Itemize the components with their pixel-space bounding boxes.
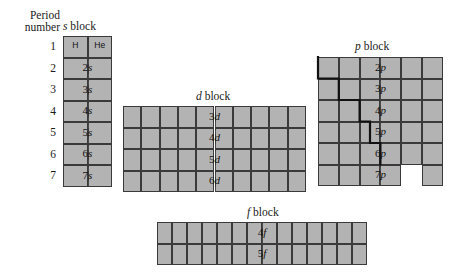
orbital-label-letter: s <box>88 104 92 116</box>
block-cell <box>178 149 196 171</box>
block-cell <box>233 128 251 150</box>
d-block-title: d block <box>196 90 230 102</box>
block-cell <box>337 222 352 244</box>
label-leader-tick <box>262 238 263 242</box>
orbital-row-label: 3s <box>74 84 102 95</box>
label-leader-tick <box>380 81 381 85</box>
block-cell <box>292 244 307 266</box>
orbital-label-letter: s <box>88 61 92 73</box>
block-cell <box>232 244 247 266</box>
label-leader-tick <box>215 165 216 169</box>
block-cell <box>318 165 339 187</box>
block-cell <box>123 149 141 171</box>
orbital-row-label: 5p <box>366 126 394 137</box>
block-cell <box>269 128 287 150</box>
label-leader-tick <box>88 74 89 78</box>
label-leader-tick <box>380 145 381 149</box>
block-cell <box>172 244 187 266</box>
f-block-title-word: block <box>253 206 279 218</box>
block-cell <box>202 222 217 244</box>
block-cell <box>251 149 269 171</box>
p-block-title: p block <box>355 40 389 52</box>
block-cell <box>318 57 339 79</box>
block-cell <box>288 106 306 128</box>
orbital-row-label: 5f <box>248 248 276 259</box>
block-cell <box>123 106 141 128</box>
block-cell <box>233 106 251 128</box>
block-cell <box>288 171 306 193</box>
period-number-caption: Period number <box>2 10 60 33</box>
block-cell <box>401 122 422 144</box>
orbital-label-letter: f <box>263 247 266 259</box>
block-cell <box>422 100 443 122</box>
orbital-label-letter: s <box>88 147 92 159</box>
label-leader-tick <box>88 138 89 142</box>
block-cell <box>422 143 443 165</box>
orbital-row-label: 4f <box>248 227 276 238</box>
block-cell <box>172 222 187 244</box>
s-block-title-word: block <box>70 20 96 32</box>
block-cell <box>178 106 196 128</box>
block-cell <box>277 244 292 266</box>
s-block-title: s block <box>63 20 96 32</box>
orbital-row-label: 3d <box>201 111 229 122</box>
block-cell <box>288 149 306 171</box>
block-cell <box>178 171 196 193</box>
d-block-title-word: block <box>205 90 231 102</box>
orbital-row-label: 7s <box>74 170 102 181</box>
block-cell <box>401 143 422 165</box>
label-leader-tick <box>262 224 263 228</box>
label-leader-tick <box>215 108 216 112</box>
orbital-label-letter: f <box>263 226 266 238</box>
label-leader-tick <box>380 102 381 106</box>
period-caption-line1: Period <box>2 10 60 22</box>
block-cell <box>141 149 159 171</box>
label-leader-tick <box>380 95 381 99</box>
label-leader-tick <box>88 124 89 128</box>
orbital-row-label: 3p <box>366 83 394 94</box>
block-cell <box>160 128 178 150</box>
label-leader-tick <box>215 173 216 177</box>
label-leader-tick <box>88 167 89 171</box>
block-cell <box>233 149 251 171</box>
orbital-label-letter: s <box>88 126 92 138</box>
orbital-label-letter: s <box>88 83 92 95</box>
block-cell <box>269 171 287 193</box>
block-cell <box>269 106 287 128</box>
label-leader-tick <box>262 260 263 264</box>
orbital-row-label: 4p <box>366 105 394 116</box>
label-leader-tick <box>215 130 216 134</box>
label-leader-tick <box>262 246 263 250</box>
block-cell <box>187 222 202 244</box>
block-cell <box>339 79 360 101</box>
block-cell <box>187 244 202 266</box>
orbital-row-label: 5s <box>74 127 102 138</box>
block-cell <box>202 244 217 266</box>
label-leader-tick <box>380 159 381 163</box>
block-cell <box>401 79 422 101</box>
label-leader-tick <box>88 181 89 185</box>
block-cell <box>307 244 322 266</box>
label-leader-tick <box>380 73 381 77</box>
label-leader-tick <box>88 160 89 164</box>
orbital-row-label: 6s <box>74 148 102 159</box>
period-number-6: 6 <box>40 148 56 160</box>
label-leader-tick <box>88 103 89 107</box>
element-symbol: H <box>63 41 88 50</box>
label-leader-tick <box>88 95 89 99</box>
period-number-1: 1 <box>40 40 56 52</box>
block-cell <box>422 79 443 101</box>
label-leader-tick <box>380 167 381 171</box>
block-cell <box>292 222 307 244</box>
block-cell <box>401 100 422 122</box>
block-cell <box>178 128 196 150</box>
period-number-7: 7 <box>40 169 56 181</box>
block-cell <box>339 100 360 122</box>
block-cell <box>337 244 352 266</box>
label-leader-tick <box>88 81 89 85</box>
orbital-row-label: 4s <box>74 105 102 116</box>
block-cell <box>269 149 287 171</box>
label-leader-tick <box>380 124 381 128</box>
block-cell <box>251 128 269 150</box>
block-cell <box>318 143 339 165</box>
